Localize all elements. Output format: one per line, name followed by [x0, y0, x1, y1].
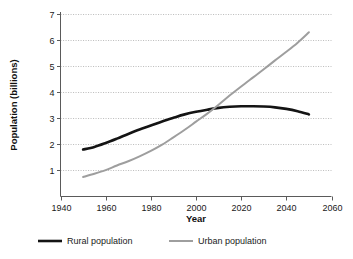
y-tick-label-group: 1234567 [49, 10, 54, 176]
x-tick-label: 1940 [51, 203, 71, 213]
series-group [83, 32, 309, 177]
x-tick-label: 1960 [96, 203, 116, 213]
population-chart-figure: 1234567 1940196019802000202020402060 Yea… [0, 0, 353, 259]
x-tick-label: 1980 [141, 203, 161, 213]
legend-label-rural-population: Rural population [67, 236, 133, 246]
y-axis-title: Population (billions) [8, 59, 19, 150]
chart-legend: Rural populationUrban population [38, 236, 267, 246]
y-tick-label: 7 [49, 10, 54, 20]
x-tick-mark-group [62, 197, 333, 201]
x-tick-label: 2020 [231, 203, 251, 213]
series-line-urban-population [83, 32, 309, 177]
x-tick-label: 2000 [186, 203, 206, 213]
x-tick-label: 2040 [276, 203, 296, 213]
y-tick-label: 6 [49, 36, 54, 46]
y-tick-label: 4 [49, 88, 54, 98]
y-tick-label: 3 [49, 114, 54, 124]
x-axis-title: Year [186, 213, 206, 224]
y-tick-label: 5 [49, 62, 54, 72]
legend-label-urban-population: Urban population [198, 236, 267, 246]
y-tick-mark-group [57, 15, 61, 171]
x-tick-label-group: 1940196019802000202020402060 [51, 203, 342, 213]
gridline-group [61, 15, 332, 171]
series-line-rural-population [83, 106, 309, 149]
x-tick-label: 2060 [322, 203, 342, 213]
y-tick-label: 2 [49, 140, 54, 150]
y-tick-label: 1 [49, 166, 54, 176]
line-chart: 1234567 1940196019802000202020402060 Yea… [0, 0, 353, 259]
